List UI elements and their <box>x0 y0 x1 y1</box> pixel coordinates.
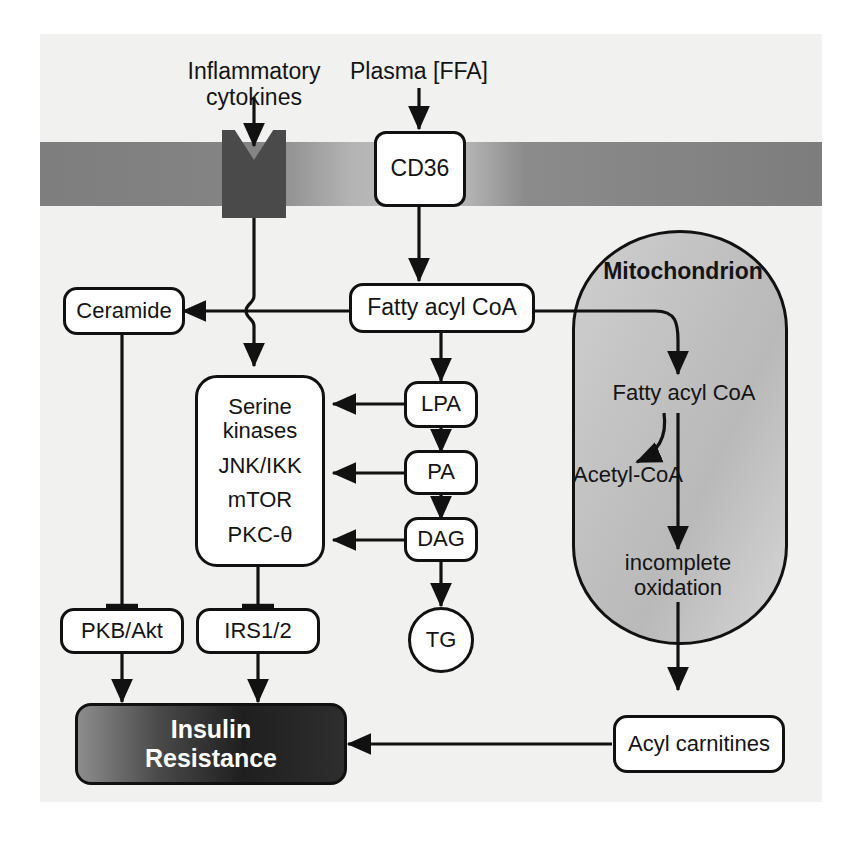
incomplete-oxidation-label: incomplete oxidation <box>588 550 768 601</box>
node-ceramide[interactable]: Ceramide <box>63 287 185 335</box>
inflammatory-cytokines-label: Inflammatory cytokines <box>164 58 344 111</box>
figure-root: Inflammatory cytokines Plasma [FFA] Mito… <box>0 0 848 843</box>
node-tg-label: TG <box>426 628 457 652</box>
node-pkb-akt[interactable]: PKB/Akt <box>60 608 184 654</box>
node-lpa[interactable]: LPA <box>404 381 478 428</box>
node-tg[interactable]: TG <box>408 607 474 673</box>
acetyl-coa-label: Acetyl-CoA <box>533 462 723 487</box>
node-dag-label: DAG <box>417 527 465 551</box>
node-serine-kinases[interactable]: Serine kinases JNK/IKK mTOR PKC-θ <box>195 375 325 567</box>
serine-kinases-line-2: mTOR <box>228 488 292 512</box>
node-acyl-carnitines[interactable]: Acyl carnitines <box>613 715 785 773</box>
mito-fatty-acyl-coa-label: Fatty acyl CoA <box>584 380 784 405</box>
plasma-ffa-label: Plasma [FFA] <box>329 58 509 84</box>
node-dag[interactable]: DAG <box>404 517 478 562</box>
node-insulin-resistance-label: Insulin Resistance <box>145 715 277 773</box>
serine-kinases-line-1: JNK/IKK <box>218 454 301 478</box>
node-cd36-label: CD36 <box>391 156 450 181</box>
node-pa[interactable]: PA <box>404 450 478 495</box>
serine-kinases-line-0: Serine kinases <box>223 395 298 443</box>
node-acyl-carnitines-label: Acyl carnitines <box>628 732 770 756</box>
node-cd36[interactable]: CD36 <box>374 131 466 207</box>
node-irs-label: IRS1/2 <box>224 619 291 643</box>
node-ceramide-label: Ceramide <box>76 299 171 323</box>
node-fatty-acyl-coa-label: Fatty acyl CoA <box>367 295 517 320</box>
node-irs[interactable]: IRS1/2 <box>196 608 320 654</box>
node-insulin-resistance[interactable]: Insulin Resistance <box>75 703 347 785</box>
mitochondrion-label: Mitochondrion <box>588 258 778 284</box>
node-lpa-label: LPA <box>421 392 461 416</box>
node-pkb-akt-label: PKB/Akt <box>81 619 163 643</box>
serine-kinases-line-3: PKC-θ <box>228 523 293 547</box>
node-fatty-acyl-coa[interactable]: Fatty acyl CoA <box>349 283 535 333</box>
node-pa-label: PA <box>427 460 455 484</box>
